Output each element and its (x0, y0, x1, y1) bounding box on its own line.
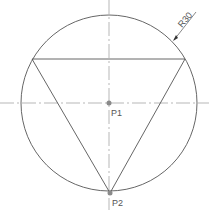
geometry-drawing: R30 P1 P2 (0, 0, 209, 210)
point-p2-label: P2 (112, 198, 123, 208)
point-p2 (108, 191, 113, 196)
point-p1 (107, 101, 112, 106)
radius-label: R30 (176, 10, 194, 29)
point-p1-label: P1 (111, 108, 122, 118)
